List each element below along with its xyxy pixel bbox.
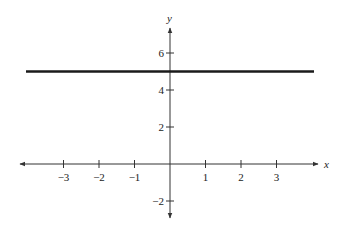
y-axis-label: y [166,12,172,24]
axis-labels: x y [166,12,329,170]
y-tick-label: 6 [159,47,165,59]
coordinate-plane: −3−2−1123642−2 x y [0,0,354,229]
x-tick-label: 3 [274,171,280,183]
x-tick-label: −1 [129,171,141,183]
y-tick-label: 2 [159,121,165,133]
x-tick-label: −2 [93,171,105,183]
y-tick-label: 4 [159,84,165,96]
y-tick-label: −2 [152,195,164,207]
x-axis-label: x [323,158,329,170]
x-tick-label: −3 [58,171,70,183]
x-tick-label: 1 [203,171,209,183]
x-tick-label: 2 [238,171,244,183]
axes [20,28,318,218]
